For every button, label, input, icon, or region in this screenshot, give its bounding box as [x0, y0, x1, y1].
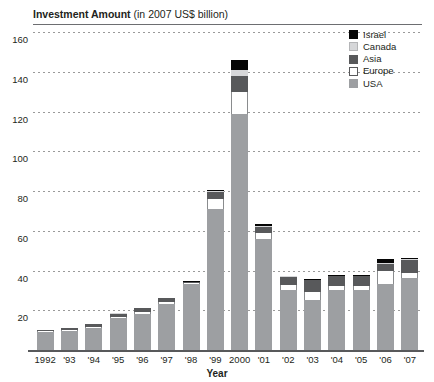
x-axis-tick-label: 2000	[228, 354, 252, 365]
y-axis-tick-label: 140	[2, 75, 28, 85]
legend-item-label: Europe	[363, 66, 394, 76]
chart-title-units: (in 2007 US$ billion)	[131, 8, 228, 20]
chart-title: Investment Amount (in 2007 US$ billion)	[33, 8, 423, 21]
bar-06[interactable]	[377, 259, 394, 350]
y-axis-tick-label: 20	[2, 313, 28, 323]
bar-segment-asia	[401, 260, 418, 274]
bar-segment-usa	[231, 114, 248, 351]
y-axis-tick-label: 60	[2, 234, 28, 244]
y-axis-tick-label: 100	[2, 154, 28, 164]
investment-amount-chart: Investment Amount (in 2007 US$ billion) …	[0, 0, 434, 382]
usa-swatch-icon	[349, 79, 358, 88]
bar-05[interactable]	[353, 275, 370, 350]
bar-segment-usa	[61, 331, 78, 350]
bar-93[interactable]	[61, 328, 78, 350]
y-axis-tick-label: 80	[2, 194, 28, 204]
bar-segment-usa	[37, 332, 54, 350]
y-axis-tick-label: 120	[2, 115, 28, 125]
bar-98[interactable]	[183, 281, 200, 350]
x-axis-tick-label: '01	[252, 354, 276, 365]
bar-1992[interactable]	[37, 330, 54, 350]
legend-item-europe[interactable]: Europe	[349, 66, 396, 78]
x-axis-tick-label: '07	[398, 354, 422, 365]
europe-swatch-icon	[349, 67, 358, 76]
chart-title-bold: Investment Amount	[33, 8, 131, 20]
bar-segment-asia	[231, 76, 248, 92]
bar-04[interactable]	[328, 275, 345, 350]
bar-segment-usa	[207, 209, 224, 350]
x-axis-tick-label: 1992	[33, 354, 57, 365]
x-axis-tick-label: '05	[349, 354, 373, 365]
bar-segment-asia	[377, 264, 394, 271]
bar-99[interactable]	[207, 190, 224, 350]
x-axis-tick-label: '94	[82, 354, 106, 365]
bar-segment-usa	[280, 290, 297, 350]
bar-97[interactable]	[158, 298, 175, 350]
bar-segment-europe	[207, 199, 224, 209]
bar-segment-asia	[328, 276, 345, 286]
legend-item-label: Asia	[363, 54, 381, 64]
legend-item-label: USA	[363, 79, 383, 89]
asia-swatch-icon	[349, 55, 358, 64]
x-axis-tick-label: '03	[300, 354, 324, 365]
x-axis-tick-label: '02	[276, 354, 300, 365]
bar-segment-usa	[304, 300, 321, 350]
title-divider	[33, 24, 422, 25]
bar-95[interactable]	[110, 313, 127, 350]
bar-96[interactable]	[134, 308, 151, 351]
bar-segment-usa	[183, 284, 200, 350]
bar-segment-usa	[85, 328, 102, 350]
bar-segment-asia	[353, 276, 370, 286]
bar-segment-asia	[207, 192, 224, 199]
bar-03[interactable]	[304, 279, 321, 350]
bar-segment-asia	[280, 277, 297, 285]
x-axis-tick-label: '93	[57, 354, 81, 365]
legend-item-label: Israel	[363, 30, 386, 40]
bar-segment-usa	[134, 314, 151, 350]
bar-segment-israel	[231, 60, 248, 70]
x-axis-title: Year	[0, 368, 434, 379]
bar-segment-europe	[231, 92, 248, 114]
bar-segment-usa	[353, 290, 370, 350]
legend-item-asia[interactable]: Asia	[349, 53, 396, 65]
bar-segment-usa	[110, 318, 127, 350]
x-axis-line	[28, 350, 424, 352]
legend-item-label: Canada	[363, 42, 396, 52]
bar-segment-usa	[255, 239, 272, 350]
bar-94[interactable]	[85, 324, 102, 350]
legend-item-usa[interactable]: USA	[349, 78, 396, 90]
x-axis-tick-label: '98	[179, 354, 203, 365]
bar-segment-usa	[401, 278, 418, 350]
bar-segment-usa	[377, 284, 394, 350]
bar-segment-usa	[158, 304, 175, 350]
bar-07[interactable]	[401, 258, 418, 350]
x-axis-tick-label: '04	[325, 354, 349, 365]
bar-2000[interactable]	[231, 60, 248, 350]
y-axis-tick-label: 40	[2, 274, 28, 284]
chart-legend: IsraelCanadaAsiaEuropeUSA	[349, 29, 396, 90]
canada-swatch-icon	[349, 42, 358, 51]
x-axis-tick-label: '96	[130, 354, 154, 365]
x-axis-tick-label: '99	[203, 354, 227, 365]
bar-02[interactable]	[280, 276, 297, 350]
x-axis-tick-label: '97	[155, 354, 179, 365]
x-axis-tick-labels: 1992'93'94'95'96'97'98'992000'01'02'03'0…	[33, 354, 422, 368]
y-axis-tick-label: 160	[2, 35, 28, 45]
bar-segment-europe	[377, 271, 394, 285]
bar-segment-europe	[304, 292, 321, 300]
bar-segment-asia	[304, 280, 321, 292]
legend-item-israel[interactable]: Israel	[349, 29, 396, 41]
bar-01[interactable]	[255, 224, 272, 350]
x-axis-tick-label: '95	[106, 354, 130, 365]
israel-swatch-icon	[349, 30, 358, 39]
bar-segment-usa	[328, 290, 345, 350]
x-axis-tick-label: '06	[373, 354, 397, 365]
legend-item-canada[interactable]: Canada	[349, 41, 396, 53]
